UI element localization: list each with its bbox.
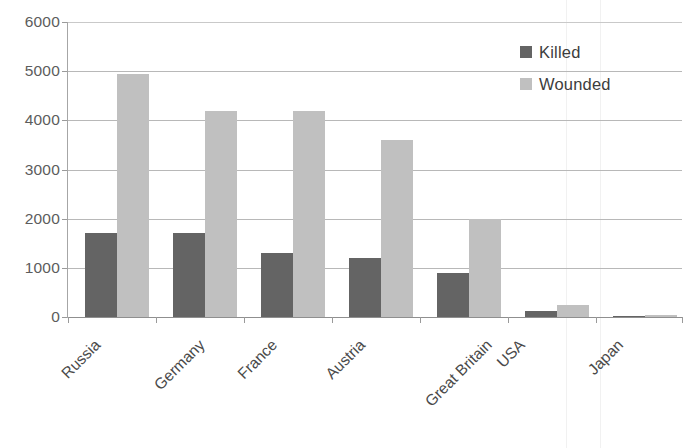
legend-label-killed: Killed [539,43,581,62]
x-axis-label-germany: Germany [151,336,209,394]
x-axis-label-france: France [234,336,281,383]
legend-label-wounded: Wounded [539,75,611,94]
legend-swatch-wounded-icon [520,78,532,90]
x-axis-label-japan: Japan [584,336,627,379]
chart-legend: Killed Wounded [520,36,680,100]
legend-swatch-killed-icon [520,46,532,58]
legend-item-killed[interactable]: Killed [520,36,680,68]
x-axis-label-austria: Austria [322,336,369,383]
bar-chart: 6000 5000 4000 3000 2000 1000 0 [0,0,692,448]
x-axis-label-great-britain: Great Britain [421,336,495,410]
legend-item-wounded[interactable]: Wounded [520,68,680,100]
x-axis-label-usa: USA [493,336,528,371]
x-axis-label-russia: Russia [58,336,104,382]
